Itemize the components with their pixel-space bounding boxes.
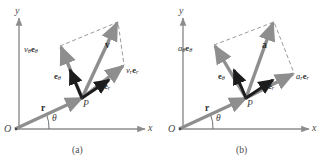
origin-marker xyxy=(179,128,182,131)
panel-b-drawing xyxy=(164,0,328,163)
point-p-marker xyxy=(244,96,247,99)
angle-arc xyxy=(211,115,214,130)
origin-marker xyxy=(15,128,18,131)
unit-vector-e-theta xyxy=(70,70,82,98)
point-p-marker xyxy=(80,96,83,99)
angle-arc xyxy=(47,115,50,130)
panel-a: y x O P θ r v vθeθ vrer eθ er (a) xyxy=(0,0,164,163)
panel-b-caption: (b) xyxy=(236,145,247,155)
panel-a-caption: (a) xyxy=(72,145,83,155)
figure-root: y x O P θ r v vθeθ vrer eθ er (a) xyxy=(0,0,328,163)
panel-a-drawing xyxy=(0,0,164,163)
panel-b: y x O P θ r a aθeθ arer eθ er (b) xyxy=(164,0,328,163)
